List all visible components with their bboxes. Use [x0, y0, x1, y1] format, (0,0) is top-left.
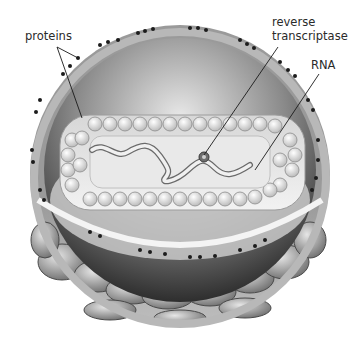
capsid-core — [60, 115, 305, 210]
label-rna: RNA — [311, 59, 335, 72]
label-proteins: proteins — [25, 30, 72, 43]
retrovirus-diagram: proteins reverse transcriptase RNA — [0, 0, 361, 343]
virus-illustration — [0, 0, 361, 343]
label-reverse-transcriptase-line1: reverse — [272, 16, 315, 29]
label-reverse-transcriptase-line2: transcriptase — [272, 30, 348, 43]
